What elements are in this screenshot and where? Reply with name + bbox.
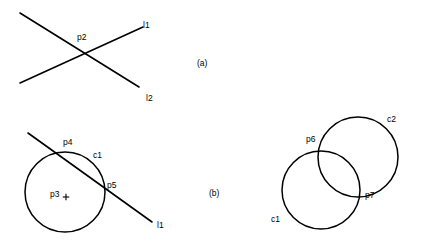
label-p4: p4 [63, 138, 73, 147]
label-c2-panel-b-right: c2 [387, 115, 396, 124]
circle-c1-panel-b-left [25, 152, 105, 232]
label-p7: p7 [365, 191, 375, 200]
circle-c1-panel-b-right [282, 151, 360, 229]
label-p3: p3 [50, 190, 60, 199]
geometry-figure: p2 l1 l2 p4 c1 p3 p5 l1 c2 p6 p7 c1 (a) … [0, 0, 448, 250]
label-c1-panel-b-left: c1 [93, 151, 102, 160]
label-p2: p2 [77, 33, 87, 42]
subfigure-label-a: (a) [197, 59, 207, 68]
geometry-canvas [0, 0, 448, 250]
label-p5: p5 [107, 181, 117, 190]
circle-c2-panel-b-right [318, 117, 398, 197]
line-l1-panel-a [20, 13, 139, 87]
panel-b-right-group [282, 117, 398, 229]
panel-b-left-group [25, 133, 152, 232]
label-l1-panel-b-left: l1 [157, 221, 164, 230]
label-p6: p6 [306, 135, 316, 144]
subfigure-label-b: (b) [209, 189, 219, 198]
label-c1-panel-b-right: c1 [271, 215, 280, 224]
line-l1-panel-b-left [28, 133, 152, 222]
label-l1-panel-a: l1 [143, 21, 150, 30]
label-l2-panel-a: l2 [146, 94, 153, 103]
panel-a-group [20, 13, 143, 87]
center-marker-p3 [63, 194, 69, 200]
